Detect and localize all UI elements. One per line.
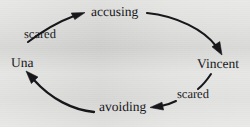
edge-avoiding-to-una-line <box>34 80 94 112</box>
node-label-una: Una <box>11 56 34 70</box>
edge-avoiding-to-una <box>26 71 94 112</box>
edge-accusing-to-vincent-line <box>147 13 216 46</box>
edge-vincent-to-avoiding-line-lower <box>161 101 176 106</box>
cycle-diagram-figure: accusing Vincent avoiding Una scared sca… <box>0 0 250 127</box>
edge-label-scared-left: scared <box>24 28 56 41</box>
edge-accusing-to-vincent <box>147 13 222 55</box>
node-label-vincent: Vincent <box>197 57 239 71</box>
node-label-avoiding: avoiding <box>99 100 146 114</box>
node-label-accusing: accusing <box>91 5 138 19</box>
edge-una-to-accusing-arrowhead <box>71 13 85 20</box>
edge-vincent-to-avoiding-arrowhead <box>150 102 164 110</box>
edge-label-scared-right: scared <box>177 88 209 101</box>
